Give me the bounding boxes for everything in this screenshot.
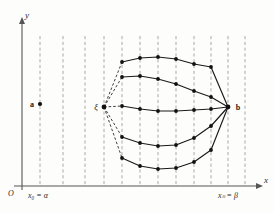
curve-node-3-4 bbox=[192, 136, 196, 140]
gridline-group bbox=[40, 36, 245, 186]
point-a-marker bbox=[38, 102, 42, 106]
origin-label: O bbox=[8, 189, 14, 198]
extremal-curve-4 bbox=[122, 107, 228, 169]
curve-node-3-5 bbox=[209, 124, 213, 128]
curve-node-1-2 bbox=[156, 77, 160, 81]
curve-node-3-2 bbox=[156, 144, 160, 148]
curve-node-1-5 bbox=[209, 95, 213, 99]
curve-node-4-5 bbox=[209, 148, 213, 152]
tick-label-right: xₙ = β bbox=[217, 191, 238, 200]
curve-group bbox=[122, 57, 228, 169]
curve-node-0-4 bbox=[192, 62, 196, 66]
figure-canvas: y x O x₀ = α xₙ = β a b ξ bbox=[0, 0, 274, 213]
curve-node-4-0 bbox=[120, 156, 124, 160]
x-axis-arrowhead bbox=[256, 183, 263, 189]
curve-node-0-1 bbox=[138, 56, 142, 60]
point-xi-marker bbox=[102, 105, 107, 110]
point-b-marker bbox=[226, 105, 231, 110]
pencil-lead-3 bbox=[104, 107, 122, 137]
curve-node-2-2 bbox=[156, 109, 160, 113]
curve-node-2-1 bbox=[138, 107, 142, 111]
curve-node-0-2 bbox=[156, 55, 160, 59]
curve-node-3-0 bbox=[120, 135, 124, 139]
curve-node-1-0 bbox=[120, 75, 124, 79]
curve-node-2-0 bbox=[120, 104, 124, 108]
pencil-lead-2 bbox=[104, 106, 122, 107]
point-b-label: b bbox=[236, 103, 241, 112]
dashed-pencil-group bbox=[104, 62, 122, 158]
y-axis-label: y bbox=[24, 10, 29, 20]
curve-node-1-3 bbox=[174, 82, 178, 86]
curve-node-2-5 bbox=[209, 107, 213, 111]
pencil-lead-1 bbox=[104, 77, 122, 107]
extremal-curve-0 bbox=[122, 57, 228, 107]
curve-node-2-3 bbox=[174, 109, 178, 113]
curve-node-1-1 bbox=[138, 74, 142, 78]
curve-node-0-3 bbox=[174, 57, 178, 61]
curve-node-4-2 bbox=[156, 167, 160, 171]
point-xi-label: ξ bbox=[94, 102, 98, 112]
curve-node-3-1 bbox=[138, 141, 142, 145]
tick-label-left: x₀ = α bbox=[27, 191, 49, 200]
curve-node-4-3 bbox=[174, 166, 178, 170]
x-axis-label: x bbox=[263, 175, 268, 185]
point-a-label: a bbox=[30, 100, 34, 109]
extremal-field-diagram: y x O x₀ = α xₙ = β a b ξ bbox=[0, 0, 274, 213]
curve-node-4-4 bbox=[192, 160, 196, 164]
pencil-lead-0 bbox=[104, 62, 122, 107]
curve-node-4-1 bbox=[138, 164, 142, 168]
curve-node-0-5 bbox=[209, 65, 213, 69]
curve-node-1-4 bbox=[192, 89, 196, 93]
extremal-curve-1 bbox=[122, 76, 228, 107]
axes-group bbox=[14, 17, 263, 190]
curve-node-2-4 bbox=[192, 108, 196, 112]
curve-node-3-3 bbox=[174, 143, 178, 147]
curve-node-0-0 bbox=[120, 60, 124, 64]
node-group bbox=[120, 55, 213, 171]
